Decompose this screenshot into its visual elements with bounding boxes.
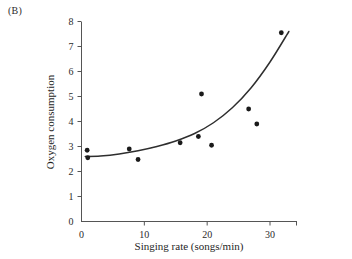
y-tick-label: 4 [69,116,74,127]
scatter-plot: 012345678 0102030 Singing rate (songs/mi… [0,0,352,259]
y-axis-title: Oxygen consumption [44,74,56,169]
x-tick-label: 10 [139,229,149,240]
data-point [136,157,141,162]
y-tick-label: 0 [69,216,74,227]
y-tick-label: 5 [69,91,74,102]
y-tick-label: 1 [69,191,74,202]
x-tick-label: 0 [79,229,84,240]
y-axis-ticks: 012345678 [69,16,82,227]
y-tick-label: 6 [69,66,74,77]
data-point [178,140,183,145]
x-axis-ticks: 0102030 [79,222,297,240]
data-point [279,30,284,35]
data-points [85,30,284,162]
axes [82,22,298,222]
y-tick-label: 7 [69,41,74,52]
data-point [209,143,214,148]
data-point [246,107,251,112]
data-point [127,147,132,152]
data-point [196,134,201,139]
figure-panel-b: (B) 012345678 0102030 Singing rate (song… [0,0,352,259]
fitted-exponential-curve [85,32,289,157]
y-tick-label: 3 [69,141,74,152]
data-point [85,155,90,160]
data-point [254,122,259,127]
data-point [85,148,90,153]
x-tick-label: 20 [202,229,212,240]
data-point [199,92,204,97]
x-tick-label: 30 [265,229,275,240]
y-tick-label: 8 [69,16,74,27]
y-tick-label: 2 [69,166,74,177]
x-axis-title: Singing rate (songs/min) [135,240,244,253]
